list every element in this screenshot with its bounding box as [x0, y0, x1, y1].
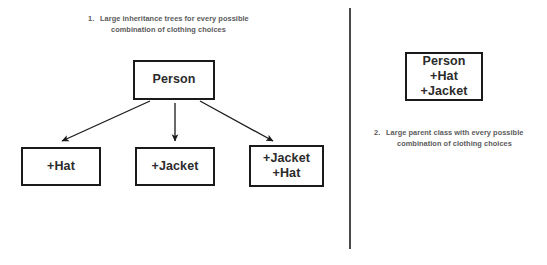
caption-2-line-1: Large parent class with every possible [386, 128, 523, 137]
class-box-person-hat-jacket[interactable]: Person +Hat +Jacket [405, 52, 483, 101]
class-box-person-all-label-3: +Jacket [421, 84, 468, 99]
class-box-person-label: Person [153, 72, 196, 87]
class-box-person-all-label-1: Person [423, 54, 466, 69]
class-box-jacket-label: +Jacket [152, 159, 199, 174]
class-box-jacket[interactable]: +Jacket [135, 147, 215, 186]
caption-1-text: Large inheritance trees for every possib… [88, 13, 249, 36]
caption-1-number: 1. [88, 13, 94, 24]
class-box-jacket-hat-label-1: +Jacket [263, 151, 310, 166]
caption-2-number: 2. [374, 127, 380, 138]
diagram-canvas: 1. Large inheritance trees for every pos… [0, 0, 547, 265]
caption-1-line-2: combination of clothing choices [100, 24, 249, 35]
class-box-person[interactable]: Person [133, 60, 215, 100]
panel-divider [349, 8, 351, 249]
caption-1-line-1: Large inheritance trees for every possib… [100, 14, 249, 23]
class-box-jacket-hat[interactable]: +Jacket +Hat [249, 145, 324, 187]
class-box-person-all-label-2: +Hat [430, 69, 458, 84]
class-box-hat[interactable]: +Hat [21, 147, 101, 186]
arrow-person-to-jacket-hat [200, 101, 273, 141]
arrow-person-to-hat [62, 101, 150, 141]
caption-2-line-2: combination of clothing choices [386, 138, 523, 149]
caption-2-text: Large parent class with every possible c… [374, 127, 523, 150]
caption-inheritance-trees: 1. Large inheritance trees for every pos… [88, 13, 249, 36]
caption-large-parent-class: 2. Large parent class with every possibl… [374, 127, 523, 150]
class-box-jacket-hat-label-2: +Hat [273, 166, 301, 181]
class-box-hat-label: +Hat [47, 159, 75, 174]
